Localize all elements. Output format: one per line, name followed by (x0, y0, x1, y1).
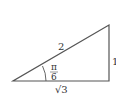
hypotenuse-label: 2 (58, 41, 64, 52)
adjacent-side-label: √3 (55, 84, 68, 95)
right-triangle (13, 25, 109, 81)
angle-denominator: 6 (51, 72, 57, 82)
opposite-side-label: 1 (112, 56, 116, 67)
angle-numerator: π (51, 62, 57, 72)
triangle-diagram: 2 1 π 6 √3 (0, 0, 116, 98)
angle-arc (43, 66, 47, 81)
